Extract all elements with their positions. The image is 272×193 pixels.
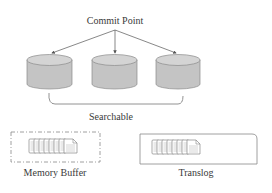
memory-buffer-label: Memory Buffer (24, 167, 87, 178)
memory-buffer-document-stack-icon (29, 139, 77, 153)
searchable-bracket (49, 93, 183, 104)
segment-3-icon (156, 55, 200, 89)
commit-arrows (52, 30, 176, 53)
segment-1-icon (27, 55, 72, 90)
commit-point-label: Commit Point (87, 15, 143, 26)
translog-label: Translog (178, 167, 213, 178)
segment-2-icon (92, 55, 137, 90)
searchable-label: Searchable (89, 111, 133, 122)
translog-document-stack-icon (152, 140, 200, 154)
diagram-canvas (0, 0, 272, 193)
